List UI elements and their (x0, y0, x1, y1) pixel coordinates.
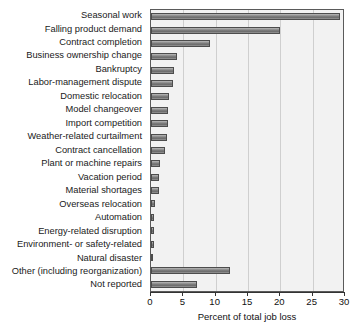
bar-row (151, 157, 343, 170)
category-label: Falling product demand (0, 22, 146, 35)
category-label: Model changeover (0, 103, 146, 116)
category-label: Contract completion (0, 36, 146, 49)
bar-row (151, 278, 343, 291)
bar-row (151, 90, 343, 103)
bar (151, 80, 173, 87)
category-label: Weather-related curtailment (0, 130, 146, 143)
bar (151, 160, 160, 167)
category-axis-labels: Seasonal workFalling product demandContr… (0, 9, 146, 292)
bar (151, 67, 174, 74)
category-label: Material shortages (0, 184, 146, 197)
bar (151, 93, 169, 100)
bar-row (151, 77, 343, 90)
category-label: Bankruptcy (0, 63, 146, 76)
category-label: Seasonal work (0, 9, 146, 22)
x-tick-label: 30 (339, 296, 350, 307)
category-label: Plant or machine repairs (0, 157, 146, 170)
x-tick-label: 10 (209, 296, 220, 307)
bar-row (151, 251, 343, 264)
x-tick-label: 20 (274, 296, 285, 307)
bar (151, 107, 168, 114)
bar-row (151, 10, 343, 23)
bar (151, 200, 155, 207)
bar-row (151, 23, 343, 36)
bar (151, 227, 154, 234)
x-tick-label: 25 (306, 296, 317, 307)
bar-row (151, 184, 343, 197)
bar (151, 27, 280, 34)
bar (151, 214, 154, 221)
bar (151, 40, 210, 47)
bar (151, 147, 165, 154)
bar (151, 134, 167, 141)
bar-row (151, 117, 343, 130)
bar-series (151, 10, 343, 291)
bar-row (151, 130, 343, 143)
x-tick-label: 5 (180, 296, 185, 307)
bar-row (151, 64, 343, 77)
plot-area (150, 9, 344, 292)
bar-row (151, 104, 343, 117)
bar-row (151, 197, 343, 210)
category-label: Natural disaster (0, 251, 146, 264)
category-label: Vacation period (0, 171, 146, 184)
x-axis-title: Percent of total job loss (150, 311, 344, 322)
category-label: Other (including reorganization) (0, 265, 146, 278)
category-label: Contract cancellation (0, 144, 146, 157)
category-label: Overseas relocation (0, 198, 146, 211)
bar-row (151, 224, 343, 237)
category-label: Environment- or safety-related (0, 238, 146, 251)
bar-chart: Seasonal workFalling product demandContr… (0, 0, 353, 332)
x-tick-label: 15 (242, 296, 253, 307)
bar-row (151, 211, 343, 224)
category-label: Labor-management dispute (0, 76, 146, 89)
bar (151, 187, 159, 194)
category-label: Domestic relocation (0, 90, 146, 103)
bar (151, 267, 230, 274)
bar-row (151, 237, 343, 250)
bar (151, 281, 197, 288)
category-label: Energy-related disruption (0, 225, 146, 238)
bar (151, 241, 154, 248)
bar (151, 174, 159, 181)
category-label: Import competition (0, 117, 146, 130)
chart-title (150, 0, 344, 1)
bar (151, 53, 177, 60)
bar (151, 13, 340, 20)
bar-row (151, 37, 343, 50)
bar (151, 120, 168, 127)
bar (151, 254, 153, 261)
bar-row (151, 171, 343, 184)
category-label: Not reported (0, 278, 146, 291)
category-label: Automation (0, 211, 146, 224)
bar-row (151, 144, 343, 157)
x-tick-label: 0 (147, 296, 152, 307)
category-label: Business ownership change (0, 49, 146, 62)
bar-row (151, 264, 343, 277)
bar-row (151, 50, 343, 63)
